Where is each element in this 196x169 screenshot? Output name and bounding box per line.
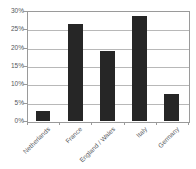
x-axis-category-label: Italy (135, 126, 148, 139)
x-axis-tick-mark (188, 122, 189, 125)
bar (132, 16, 147, 121)
y-axis-tick-label: 0% (0, 118, 24, 125)
bars-layer (27, 11, 188, 121)
x-axis-category-label: Germany (157, 126, 181, 150)
bar (164, 94, 179, 121)
x-axis-tick-mark (156, 122, 157, 125)
x-axis-tick-mark (91, 122, 92, 125)
y-axis-tick-label: 15% (0, 63, 24, 70)
y-axis-tick-label: 25% (0, 26, 24, 33)
x-axis-category-label: France (65, 126, 84, 145)
y-axis-tick-label: 30% (0, 8, 24, 15)
y-axis-tick-label: 20% (0, 45, 24, 52)
bar (68, 24, 83, 121)
bar (36, 111, 51, 121)
x-axis-category-label: Netherlands (22, 126, 51, 155)
bar-chart: 0%5%10%15%20%25%30% NetherlandsFranceEng… (0, 0, 196, 169)
bar (100, 51, 115, 121)
x-axis-tick-mark (59, 122, 60, 125)
y-axis-tick-label: 5% (0, 100, 24, 107)
x-axis-tick-mark (124, 122, 125, 125)
x-axis-tick-mark (27, 122, 28, 125)
y-axis-tick-label: 10% (0, 81, 24, 88)
x-axis-category-label: England / Wales (78, 126, 116, 164)
